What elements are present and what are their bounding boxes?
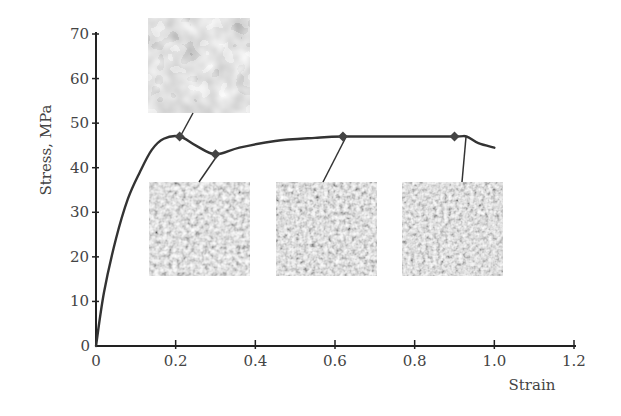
- connector-4: [462, 137, 466, 182]
- micrograph-3: [276, 182, 377, 276]
- diamond-marker: [211, 149, 221, 159]
- micrograph-2: [149, 182, 250, 276]
- diamond-marker: [175, 132, 185, 142]
- y-tick-label: 70: [70, 25, 89, 43]
- diamond-marker: [338, 132, 348, 142]
- y-tick-label: 50: [70, 114, 89, 132]
- y-axis-title: Stress, MPa: [37, 104, 55, 195]
- connector-1: [180, 113, 193, 137]
- x-tick-label: 0: [91, 352, 101, 370]
- y-tick-label: 0: [80, 337, 90, 355]
- micrograph-4: [402, 182, 503, 276]
- x-tick-label: 0.4: [243, 352, 267, 370]
- y-tick-label: 20: [70, 248, 89, 266]
- connector-lines: [180, 113, 466, 182]
- y-tick-label: 40: [70, 159, 89, 177]
- y-tick-label: 10: [70, 292, 89, 310]
- connector-3: [323, 137, 346, 182]
- x-ticks: [176, 340, 574, 349]
- stress-strain-chart: 010203040506070 00.20.40.60.81.01.2 Stra…: [0, 0, 621, 416]
- y-tick-labels: 010203040506070: [70, 25, 90, 355]
- x-tick-labels: 00.20.40.60.81.01.2: [91, 352, 586, 370]
- x-tick-label: 1.0: [482, 352, 506, 370]
- x-tick-label: 1.2: [562, 352, 586, 370]
- x-tick-label: 0.8: [403, 352, 427, 370]
- diamond-marker: [450, 132, 460, 142]
- micrograph-1: [148, 18, 250, 113]
- y-tick-label: 60: [70, 70, 89, 88]
- x-tick-label: 0.2: [164, 352, 188, 370]
- x-tick-label: 0.6: [323, 352, 347, 370]
- y-tick-label: 30: [70, 203, 89, 221]
- x-axis-title: Strain: [509, 376, 556, 394]
